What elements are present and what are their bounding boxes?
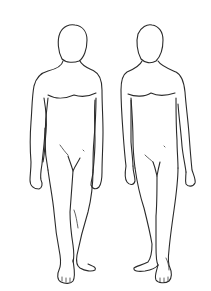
left-figure-groin-left bbox=[60, 145, 68, 155]
illustration-canvas bbox=[0, 0, 211, 291]
right-figure-head bbox=[137, 25, 163, 63]
right-figure-left-leg bbox=[134, 168, 158, 271]
right-figure-chest bbox=[128, 93, 175, 96]
right-figure-torso-left bbox=[131, 98, 135, 168]
left-figure bbox=[30, 25, 103, 284]
left-figure-chest bbox=[48, 93, 96, 98]
left-figure-right-leg bbox=[77, 170, 96, 271]
left-figure-right-side bbox=[80, 61, 103, 189]
left-figure-toes bbox=[62, 277, 70, 282]
right-figure-navel bbox=[164, 146, 165, 147]
right-figure-groin-left bbox=[145, 155, 153, 162]
left-figure-head bbox=[58, 25, 87, 63]
right-figure-toes bbox=[160, 277, 168, 282]
right-figure-torso-right bbox=[176, 98, 178, 168]
right-figure-right-inner-arm bbox=[178, 104, 186, 172]
left-figure-navel bbox=[83, 150, 84, 151]
left-figure-right-inner-leg bbox=[74, 210, 78, 228]
two-figure-outline-drawing bbox=[0, 0, 211, 291]
right-figure-left-inner-leg bbox=[156, 176, 158, 265]
right-figure-groin bbox=[153, 162, 160, 176]
right-figure bbox=[121, 25, 195, 283]
left-figure-left-inner-leg bbox=[70, 171, 74, 262]
right-figure-right-leg bbox=[155, 168, 178, 283]
left-figure-groin bbox=[68, 156, 80, 171]
